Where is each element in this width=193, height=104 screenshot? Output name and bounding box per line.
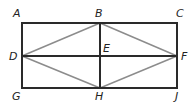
segment-bf [100,23,177,56]
segment-fh [100,56,177,88]
label-j: J [173,90,178,103]
label-f: F [181,50,188,63]
label-g: G [12,90,21,103]
segment-hd [22,56,100,88]
geometry-diagram: A B C D E F G H J [0,0,193,104]
segment-db [22,23,100,56]
label-e: E [103,42,110,55]
label-d: D [9,50,17,63]
rectangle-frame [22,23,177,88]
label-c: C [176,7,184,20]
label-h: H [95,90,103,103]
label-b: B [95,7,103,20]
label-a: A [12,7,21,20]
